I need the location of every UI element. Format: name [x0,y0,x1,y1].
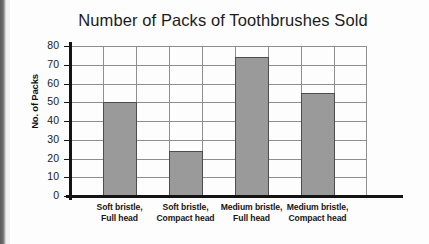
y-tick-label-10: 10 [29,170,59,182]
x-axis-line [66,195,403,198]
y-tick-20 [64,159,70,160]
y-tick-label-80: 80 [29,39,59,51]
gridline-y-60 [70,84,367,85]
bar [169,151,203,196]
category-label-line: Compact head [273,213,363,224]
bar [103,102,137,196]
category-label: Medium bristle,Compact head [273,202,363,224]
gridline-y-70 [70,65,367,66]
y-tick-30 [64,140,70,141]
y-tick-label-70: 70 [29,58,59,70]
category-label-line: Medium bristle, [273,202,363,213]
chart-title: Number of Packs of Toothbrushes Sold [48,11,398,30]
scan-edge-artifact [0,0,7,244]
scan-edge-artifact-light [7,0,10,244]
y-tick-80 [64,46,70,47]
y-tick-label-30: 30 [29,133,59,145]
y-tick-label-20: 20 [29,152,59,164]
plot-area: 80706050403020100 [70,46,400,196]
y-tick-label-50: 50 [29,95,59,107]
y-tick-70 [64,65,70,66]
y-tick-60 [64,84,70,85]
y-tick-10 [64,177,70,178]
gridline-y-80 [70,46,367,47]
y-tick-label-0: 0 [29,189,59,201]
y-tick-label-60: 60 [29,77,59,89]
bar [235,57,269,196]
y-tick-label-40: 40 [29,114,59,126]
chart-screenshot: Number of Packs of Toothbrushes Sold No.… [0,0,429,244]
bar [301,93,335,196]
y-tick-40 [64,121,70,122]
plot-grid [70,46,367,196]
y-tick-0 [64,196,70,197]
y-tick-50 [64,102,70,103]
